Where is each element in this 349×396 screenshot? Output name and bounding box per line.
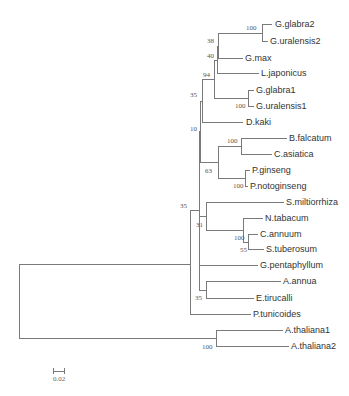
leaf-label: G.max — [245, 53, 272, 63]
leaf-label: G.uralensis2 — [270, 36, 321, 46]
leaf-label: N.tabacum — [265, 213, 309, 223]
bootstrap-value: 100 — [246, 24, 257, 32]
branch — [200, 101, 218, 162]
leaf-label: D.kaki — [246, 117, 271, 127]
bootstrap-value: 55 — [240, 246, 248, 254]
branch — [216, 330, 289, 346]
bootstrap-value: 100 — [202, 343, 213, 351]
branch — [214, 60, 248, 98]
scale-bar — [53, 368, 64, 374]
branch — [202, 79, 243, 122]
leaf-label: G.glabra2 — [275, 19, 315, 29]
bootstrap-value: 40 — [207, 52, 215, 60]
leaf-label: C.asiatica — [274, 149, 314, 159]
leaf-label: S.tuberosum — [266, 244, 317, 254]
bootstrap-value: 63 — [205, 167, 213, 175]
leaf-label: E.tirucalli — [256, 293, 293, 303]
leaf-label: S.miltiorrhiza — [286, 197, 338, 207]
branch — [199, 131, 258, 290]
leaf-label: C.annuum — [260, 229, 302, 239]
leaf-label: P.notoginseng — [250, 181, 306, 191]
bootstrap-value: 10 — [190, 125, 198, 133]
bootstrap-value: 35 — [195, 294, 203, 302]
branch — [248, 90, 254, 106]
leaf-label: G.glabra1 — [256, 85, 296, 95]
bootstrap-value: 38 — [207, 37, 215, 45]
leaf-label: B.falcatum — [289, 133, 332, 143]
branch — [218, 33, 243, 58]
leaf-label: P.ginseng — [252, 165, 291, 175]
phylogenetic-tree: G.glabra2 G.uralensis2 G.max L.japonicus… — [0, 0, 349, 396]
bootstrap-value: 100 — [235, 102, 246, 110]
bootstrap-value: 94 — [203, 71, 211, 79]
leaf-label: G.uralensis1 — [256, 101, 307, 111]
bootstrap-value: 31 — [196, 221, 204, 229]
bootstrap-value: 100 — [227, 137, 238, 145]
scale-bar-label: 0.02 — [53, 375, 66, 383]
branch — [19, 264, 216, 338]
leaf-label: A.thaliana1 — [285, 325, 330, 335]
bootstrap-value: 100 — [234, 234, 245, 242]
bootstrap-value: 100 — [233, 182, 244, 190]
bootstrap-value: 35 — [190, 91, 198, 99]
leaf-label: A.thaliana2 — [291, 341, 336, 351]
leaf-label: G.pentaphyllum — [260, 260, 323, 270]
bootstrap-value: 35 — [180, 202, 188, 210]
leaf-label: L.japonicus — [261, 68, 307, 78]
leaf-label: P.tunicoides — [253, 309, 301, 319]
leaf-label: A.annua — [283, 276, 317, 286]
